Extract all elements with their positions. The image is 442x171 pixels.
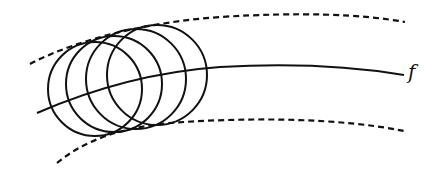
lower-envelope-dashed-curve (57, 119, 404, 163)
curve-f-label: f (408, 62, 415, 82)
curve-f (37, 65, 404, 113)
circle-1 (48, 42, 142, 136)
upper-envelope-dashed-curve (30, 14, 405, 64)
diagram-canvas (0, 0, 442, 171)
